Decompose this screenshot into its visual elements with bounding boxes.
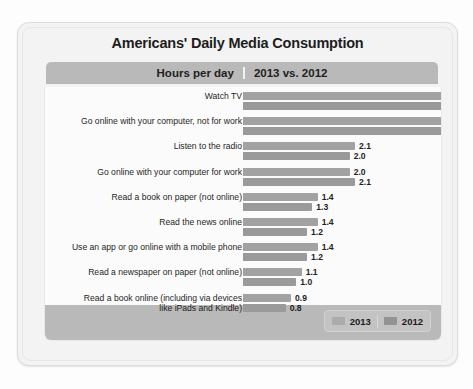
category-label: Go online with your computer, not for wo… bbox=[54, 116, 242, 127]
bar-value-label-2013: 1.4 bbox=[322, 217, 334, 227]
chart-row: Read a newspaper on paper (not online)1.… bbox=[45, 267, 441, 289]
bar-2012[interactable] bbox=[243, 228, 307, 236]
category-label: Use an app or go online with a mobile ph… bbox=[54, 242, 242, 253]
bar-line-2013: 1.4 bbox=[243, 218, 441, 226]
bar-value-label-2013: 1.4 bbox=[322, 242, 334, 252]
bar-line-2013: 1.1 bbox=[243, 268, 441, 276]
bar-2012[interactable] bbox=[243, 152, 350, 160]
legend-label-2013: 2013 bbox=[350, 316, 371, 327]
bar-value-label-2013: 1.1 bbox=[306, 267, 318, 277]
chart-row: Read the news online1.41.2 bbox=[45, 217, 441, 239]
bar-pair: 1.41.2 bbox=[243, 218, 441, 238]
infographic-card: Americans' Daily Media Consumption Hours… bbox=[17, 22, 458, 366]
bar-value-label-2012: 1.2 bbox=[311, 227, 323, 237]
category-label: Read a book on paper (not online) bbox=[54, 192, 242, 203]
bar-line-2012: 1.0 bbox=[243, 278, 441, 286]
category-label: Listen to the radio bbox=[54, 141, 242, 152]
bar-pair: 1.11.0 bbox=[243, 268, 441, 288]
bar-2012[interactable] bbox=[243, 127, 442, 135]
bar-value-label-2012: 1.0 bbox=[300, 277, 312, 287]
category-label-line1: Read a book on paper (not online) bbox=[112, 192, 242, 202]
bar-2013[interactable] bbox=[243, 294, 291, 302]
bar-2013[interactable] bbox=[243, 193, 318, 201]
legend-item-2013[interactable]: 2013 bbox=[332, 316, 371, 327]
bar-line-2013: 2.1 bbox=[243, 142, 441, 150]
subtitle-bar: Hours per day 2013 vs. 2012 bbox=[46, 62, 438, 84]
bar-2013[interactable] bbox=[243, 117, 442, 125]
bar-rows-container: Watch TV3.93.9Go online with your comput… bbox=[45, 87, 441, 340]
bar-value-label-2013: 2.1 bbox=[359, 141, 371, 151]
bar-value-label-2012: 1.2 bbox=[311, 252, 323, 262]
subtitle-divider-icon bbox=[243, 67, 245, 79]
category-label: Watch TV bbox=[54, 91, 242, 102]
category-label-line1: Use an app or go online with a mobile ph… bbox=[72, 242, 242, 252]
bar-2013[interactable] bbox=[243, 142, 355, 150]
category-label-line1: Watch TV bbox=[205, 91, 242, 101]
category-label-line1: Go online with your computer for work bbox=[97, 167, 242, 177]
bar-line-2012: 3.9 bbox=[243, 102, 441, 110]
bar-pair: 1.41.3 bbox=[243, 193, 441, 213]
bar-line-2012: 1.2 bbox=[243, 228, 441, 236]
bar-value-label-2013: 1.4 bbox=[322, 192, 334, 202]
bar-2012[interactable] bbox=[243, 304, 286, 312]
bar-line-2013: 1.4 bbox=[243, 243, 441, 251]
bar-2012[interactable] bbox=[243, 278, 296, 286]
category-label: Read the news online bbox=[54, 217, 242, 228]
bar-line-2012: 1.2 bbox=[243, 253, 441, 261]
bar-line-2013: 3.9 bbox=[243, 92, 441, 100]
bar-2012[interactable] bbox=[243, 178, 355, 186]
bar-2012[interactable] bbox=[243, 102, 442, 110]
category-label-line1: Read a book online (including via device… bbox=[84, 293, 242, 303]
bar-2013[interactable] bbox=[243, 268, 302, 276]
bar-value-label-2012: 0.8 bbox=[290, 303, 302, 313]
chart-row: Watch TV3.93.9 bbox=[45, 91, 441, 113]
bar-value-label-2012: 1.3 bbox=[316, 202, 328, 212]
bar-2013[interactable] bbox=[243, 218, 318, 226]
chart-legend: 2013 2012 bbox=[324, 310, 431, 332]
bar-pair: 3.83.8 bbox=[243, 117, 441, 137]
category-label: Read a book online (including via device… bbox=[54, 293, 242, 314]
page-title: Americans' Daily Media Consumption bbox=[18, 35, 457, 51]
bar-2013[interactable] bbox=[243, 168, 350, 176]
bar-2012[interactable] bbox=[243, 203, 312, 211]
category-label-line1: Go online with your computer, not for wo… bbox=[81, 116, 242, 126]
bar-value-label-2013: 2.0 bbox=[354, 167, 366, 177]
legend-swatch-2012-icon bbox=[384, 317, 397, 325]
chart-row: Listen to the radio2.12.0 bbox=[45, 141, 441, 163]
category-label-line1: Read a newspaper on paper (not online) bbox=[88, 267, 242, 277]
chart-row: Use an app or go online with a mobile ph… bbox=[45, 242, 441, 264]
bar-line-2012: 3.8 bbox=[243, 127, 441, 135]
chart-row: Go online with your computer, not for wo… bbox=[45, 116, 441, 138]
chart-plot-area: Watch TV3.93.9Go online with your comput… bbox=[44, 87, 442, 341]
bar-line-2012: 1.3 bbox=[243, 203, 441, 211]
bar-line-2013: 0.9 bbox=[243, 294, 441, 302]
bar-2012[interactable] bbox=[243, 253, 307, 261]
subtitle-left: Hours per day bbox=[157, 67, 234, 79]
subtitle-right: 2013 vs. 2012 bbox=[254, 67, 328, 79]
bar-line-2013: 3.8 bbox=[243, 117, 441, 125]
bar-pair: 2.12.0 bbox=[243, 142, 441, 162]
category-label-line1: Read the news online bbox=[159, 217, 242, 227]
category-label: Go online with your computer for work bbox=[54, 167, 242, 178]
bar-value-label-2013: 0.9 bbox=[295, 293, 307, 303]
bar-2013[interactable] bbox=[243, 92, 442, 100]
bar-pair: 2.02.1 bbox=[243, 168, 441, 188]
bar-pair: 3.93.9 bbox=[243, 92, 441, 112]
category-label: Read a newspaper on paper (not online) bbox=[54, 267, 242, 278]
bar-2013[interactable] bbox=[243, 243, 318, 251]
bar-line-2013: 2.0 bbox=[243, 168, 441, 176]
bar-value-label-2012: 2.0 bbox=[354, 151, 366, 161]
bar-line-2012: 2.1 bbox=[243, 178, 441, 186]
legend-item-2012[interactable]: 2012 bbox=[384, 316, 423, 327]
bar-line-2013: 1.4 bbox=[243, 193, 441, 201]
legend-label-2012: 2012 bbox=[402, 316, 423, 327]
bar-value-label-2012: 2.1 bbox=[359, 177, 371, 187]
chart-row: Go online with your computer for work2.0… bbox=[45, 167, 441, 189]
category-label-line2: like iPads and Kindle) bbox=[54, 303, 242, 314]
category-label-line1: Listen to the radio bbox=[174, 141, 242, 151]
bar-pair: 1.41.2 bbox=[243, 243, 441, 263]
chart-row: Read a book on paper (not online)1.41.3 bbox=[45, 192, 441, 214]
legend-swatch-2013-icon bbox=[332, 317, 345, 325]
bar-line-2012: 2.0 bbox=[243, 152, 441, 160]
legend-separator bbox=[377, 315, 378, 328]
